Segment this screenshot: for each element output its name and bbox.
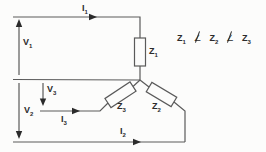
label-current-i1: I1	[82, 4, 88, 15]
label-voltage-v3: V3	[47, 85, 56, 96]
label-impedance-z1: Z1	[149, 47, 158, 58]
angle-not-equal-icon: ∠	[193, 33, 203, 43]
impedance-z1-box	[135, 38, 146, 66]
wire-z2-lead-upper	[140, 80, 149, 87]
label-voltage-v1: V1	[23, 38, 32, 49]
inequality-term-z2: Z2	[209, 34, 218, 45]
i2-arrowhead	[133, 139, 141, 145]
wire-z2-lead-lower	[174, 102, 185, 142]
v1-arrowhead	[16, 19, 22, 27]
label-current-i2: I2	[120, 127, 126, 138]
circuit-diagram: I1 V1 V2 V3 I3 I2 Z1 Z3 Z2 Z1 ∠ Z2 ∠ Z3	[0, 0, 266, 152]
circuit-wires	[0, 0, 266, 152]
label-impedance-z2: Z2	[152, 102, 161, 113]
wire-line1	[13, 17, 140, 38]
i1-arrowhead	[89, 14, 97, 20]
inequality-term-z1: Z1	[177, 34, 186, 45]
label-voltage-v2: V2	[24, 106, 33, 117]
impedance-inequality: Z1 ∠ Z2 ∠ Z3	[177, 33, 251, 45]
inequality-term-z3: Z3	[242, 34, 251, 45]
label-impedance-z3: Z3	[117, 102, 126, 113]
i3-arrowhead	[72, 108, 80, 114]
v2-arrowhead	[16, 131, 22, 139]
wire-line3	[13, 80, 140, 81]
label-current-i3: I3	[61, 115, 67, 126]
impedance-z2-box	[146, 82, 177, 106]
wire-z3-lead-upper	[133, 80, 140, 87]
angle-not-equal-icon: ∠	[225, 33, 235, 43]
v3-arrowhead	[40, 99, 46, 107]
